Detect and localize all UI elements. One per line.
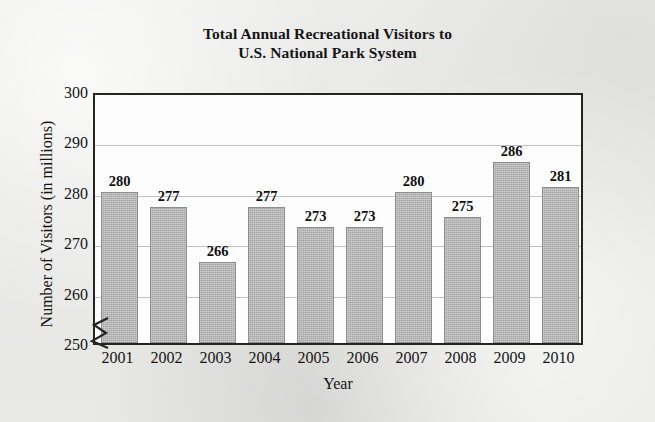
y-axis-tick-label: 290 <box>40 135 88 151</box>
bar[interactable] <box>493 162 530 343</box>
bar-value-label: 273 <box>291 209 340 224</box>
x-axis-title: Year <box>93 375 583 393</box>
y-axis-tick-label: 270 <box>40 236 88 252</box>
bar-value-label: 280 <box>95 174 144 189</box>
bar-slot: 286 <box>487 95 536 343</box>
bar[interactable] <box>542 187 579 343</box>
y-axis-tick-label: 280 <box>40 186 88 202</box>
y-axis-tick-label: 300 <box>40 85 88 101</box>
bar[interactable] <box>395 192 432 343</box>
x-axis-tick-label: 2008 <box>436 349 485 367</box>
y-axis-tick-label: 260 <box>40 287 88 303</box>
bar[interactable] <box>248 207 285 343</box>
bar[interactable] <box>199 262 236 343</box>
y-axis-tick-labels: 250260270280290300 <box>40 93 88 345</box>
x-axis-tick-label: 2001 <box>93 349 142 367</box>
bar-value-label: 277 <box>242 189 291 204</box>
bar-slot: 273 <box>340 95 389 343</box>
bar-slot: 277 <box>242 95 291 343</box>
x-axis-tick-label: 2003 <box>191 349 240 367</box>
x-axis-tick-label: 2009 <box>485 349 534 367</box>
bar[interactable] <box>346 227 383 343</box>
bars-layer: 280277266277273273280275286281 <box>95 95 581 343</box>
bar-chart-figure: Total Annual Recreational Visitors to U.… <box>0 0 655 422</box>
bar[interactable] <box>297 227 334 343</box>
axis-break-zigzag-icon <box>80 316 110 350</box>
bar-value-label: 281 <box>536 169 585 184</box>
x-axis-tick-label: 2006 <box>338 349 387 367</box>
bar-slot: 266 <box>193 95 242 343</box>
x-axis-tick-label: 2004 <box>240 349 289 367</box>
x-axis-tick-label: 2005 <box>289 349 338 367</box>
bar-value-label: 277 <box>144 189 193 204</box>
x-axis-tick-label: 2007 <box>387 349 436 367</box>
plot-area: 280277266277273273280275286281 <box>93 93 583 345</box>
chart-title-line-1: Total Annual Recreational Visitors to <box>0 24 655 43</box>
bar-value-label: 266 <box>193 244 242 259</box>
chart-title-line-2: U.S. National Park System <box>0 43 655 62</box>
chart-title: Total Annual Recreational Visitors to U.… <box>0 24 655 62</box>
bar-value-label: 280 <box>389 174 438 189</box>
bar-value-label: 275 <box>438 199 487 214</box>
bar[interactable] <box>444 217 481 343</box>
bar-value-label: 286 <box>487 144 536 159</box>
bar[interactable] <box>150 207 187 343</box>
bar-slot: 277 <box>144 95 193 343</box>
bar-slot: 273 <box>291 95 340 343</box>
bar-slot: 275 <box>438 95 487 343</box>
bar-slot: 280 <box>95 95 144 343</box>
x-axis-tick-labels: 2001200220032004200520062007200820092010 <box>93 349 583 371</box>
bar-slot: 280 <box>389 95 438 343</box>
x-axis-tick-label: 2002 <box>142 349 191 367</box>
x-axis-tick-label: 2010 <box>534 349 583 367</box>
bar-slot: 281 <box>536 95 585 343</box>
bar-value-label: 273 <box>340 209 389 224</box>
